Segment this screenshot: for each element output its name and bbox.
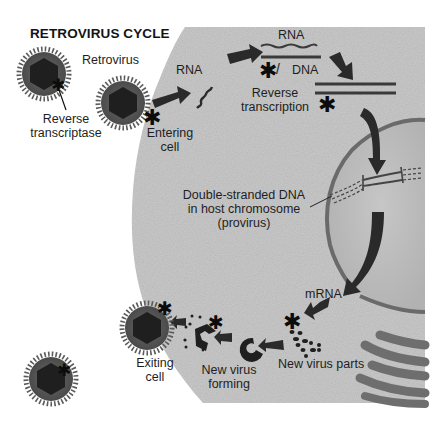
diagram-title: RETROVIRUS CYCLE (30, 27, 170, 41)
label-reverse-transcription-line2: transcription (233, 100, 317, 114)
asterisk-icon: ✱ (208, 311, 224, 333)
label-entering-line2: cell (142, 140, 198, 154)
label-reverse-transcription: Reverse transcription (233, 86, 317, 114)
label-entering-cell: Entering cell (142, 126, 198, 154)
asterisk-icon: ✱ (57, 359, 71, 381)
asterisk-icon: ✱ (318, 94, 336, 116)
label-new-virus-parts: New virus parts (278, 357, 364, 371)
label-rna-top: RNA (278, 28, 304, 42)
label-new-virus-forming: New virus forming (196, 363, 262, 391)
label-provirus: Double-stranded DNA in host chromosome (… (178, 188, 310, 230)
label-forming-line2: forming (196, 377, 262, 391)
label-rna-entry: RNA (176, 63, 202, 77)
asterisk-icon: ✱ (283, 311, 301, 333)
label-exiting-line2: cell (130, 370, 180, 384)
asterisk-icon: ✱ (143, 107, 161, 129)
label-dna-top: DNA (292, 63, 318, 77)
label-provirus-line1: Double-stranded DNA (178, 188, 310, 202)
label-retrovirus: Retrovirus (82, 53, 139, 67)
entering-retrovirus (98, 78, 148, 128)
label-exiting-cell: Exiting cell (130, 356, 180, 384)
label-exiting-line1: Exiting (130, 356, 180, 370)
label-reverse-transcriptase-line1: Reverse (28, 112, 104, 126)
label-reverse-transcriptase-line2: transcriptase (28, 126, 104, 140)
label-provirus-line3: (provirus) (178, 216, 310, 230)
asterisk-icon: ✱ (51, 74, 65, 96)
label-mrna: mRNA (305, 287, 342, 301)
label-reverse-transcriptase: Reverse transcriptase (28, 112, 104, 140)
label-forming-line1: New virus (196, 363, 262, 377)
asterisk-icon: ✱ (157, 297, 173, 319)
label-provirus-line2: in host chromosome (178, 202, 310, 216)
retrovirus-cycle-diagram: RETROVIRUS CYCLE Retrovirus Reverse tran… (0, 0, 447, 435)
asterisk-icon: ✱ (259, 60, 277, 82)
label-reverse-transcription-line1: Reverse (233, 86, 317, 100)
